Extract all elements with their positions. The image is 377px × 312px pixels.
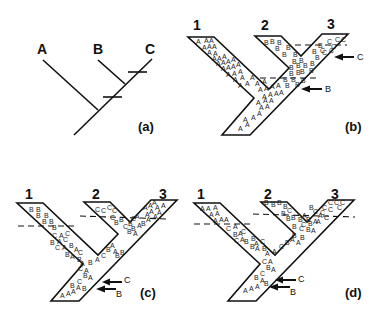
lineage-letter-c: C <box>226 225 231 232</box>
lineage-letter-a: A <box>311 227 316 234</box>
arrow-left-icon <box>301 86 310 93</box>
panel-b: 1 2 3 AAAAAAAAAAAAAAAAAAAAAAAAAAAAAAAAAA… <box>188 16 364 135</box>
arrow-left-icon <box>96 286 105 293</box>
tip-label-b: B <box>93 41 103 57</box>
lineage-letter-a: A <box>238 82 243 89</box>
arrow-label-b: B <box>116 289 122 299</box>
lineage-letter-b: B <box>254 274 259 281</box>
branch-b <box>98 60 125 84</box>
lineage-letter-c: C <box>260 238 265 245</box>
panel-label-a: (a) <box>138 119 154 134</box>
lineage-letter-b: B <box>312 48 317 55</box>
lineage-letter-b: B <box>88 259 93 266</box>
lineage-letter-a: A <box>271 266 276 273</box>
lineage-letter-c: C <box>335 36 340 43</box>
lineage-letter-c: C <box>279 243 284 250</box>
panel-label-d: (d) <box>345 285 362 300</box>
lineage-letter-c: C <box>78 265 83 272</box>
lineage-letter-a: A <box>245 80 250 87</box>
lineage-letter-b: B <box>270 38 275 45</box>
lineage-letter-a: A <box>249 285 254 292</box>
arrow-label-c: C <box>357 52 364 62</box>
lineage-letter-b: B <box>300 234 305 241</box>
figure-canvas: A B C (a) 1 2 3 AAAAAAAAAAAAAAAAAAAAAAAA… <box>0 0 377 312</box>
lineage-letter-b: B <box>285 82 290 89</box>
lineage-letter-a: A <box>133 230 138 237</box>
lineage-letter-b: B <box>295 81 300 88</box>
lineage-letter-b: B <box>82 285 87 292</box>
lineage-letter-c: C <box>313 208 318 215</box>
lineage-letter-b: B <box>292 232 297 239</box>
lineage-letter-c: C <box>320 47 325 54</box>
lineage-letter-b: B <box>244 238 249 245</box>
lineage-letter-a: A <box>245 121 250 128</box>
lineage-letter-a: A <box>196 38 201 45</box>
panel-a: A B C (a) <box>37 41 155 135</box>
lineage-letter-a: A <box>255 283 260 290</box>
arrow-left-icon <box>269 284 278 291</box>
lineage-letter-a: A <box>255 245 260 252</box>
lineage-letter-b: B <box>120 249 125 256</box>
panel-label-b: (b) <box>345 119 362 134</box>
lineage-letter-c: C <box>328 206 333 213</box>
branch-label-1: 1 <box>193 17 201 33</box>
arrow-b: B <box>269 284 296 298</box>
lineage-letter-a: A <box>272 248 277 255</box>
lineage-letter-b: B <box>271 201 276 208</box>
branch-label-2: 2 <box>261 17 269 33</box>
lineage-letter-a: A <box>62 244 67 251</box>
tip-label-c: C <box>145 41 155 57</box>
panel-d: 1 2 3 AAAAAAAACABACCABBACBABAACBABABCABA… <box>194 186 362 301</box>
lineage-letter-c: C <box>287 207 292 214</box>
lineage-letter-c: C <box>328 199 333 206</box>
lineage-letter-b: B <box>301 77 306 84</box>
lineage-letter-a: A <box>236 61 241 68</box>
lineage-letter-c: C <box>299 225 304 232</box>
arrow-left-icon <box>334 54 343 61</box>
arrow-b: B <box>96 286 122 300</box>
panel-c: 1 2 3 BBBBBBBCACBACCABACBABABACBAABBCABA… <box>17 186 177 301</box>
lineage-letter-a: A <box>157 209 162 216</box>
lineage-letter-b: B <box>277 199 282 206</box>
lineage-letter-b: B <box>127 228 132 235</box>
lineage-letter-a: A <box>71 288 76 295</box>
lineage-letter-b: B <box>275 45 280 52</box>
lineage-letter-b: B <box>292 223 297 230</box>
lineage-letter-a: A <box>76 284 81 291</box>
lineage-letter-a: A <box>212 43 217 50</box>
lineage-letter-a: A <box>233 223 238 230</box>
lineage-letter-b: B <box>310 60 315 67</box>
branch-label-3: 3 <box>327 16 335 32</box>
lineage-letter-b: B <box>264 199 269 206</box>
lineage-letter-a: A <box>238 125 243 132</box>
arrow-label-b: B <box>290 287 296 297</box>
lineage-letter-a: A <box>262 78 267 85</box>
branch-label-2: 2 <box>92 186 100 202</box>
lineage-letter-b: B <box>52 224 57 231</box>
lineage-letter-a: A <box>145 211 150 218</box>
arrow-label-b: B <box>325 84 331 94</box>
lineage-letter-c: C <box>101 207 106 214</box>
lineage-letter-a: A <box>316 218 321 225</box>
lineage-letter-b: B <box>291 214 296 221</box>
lineage-letter-a: A <box>226 71 231 78</box>
lineage-letter-b: B <box>286 44 291 51</box>
arrow-c: C <box>102 275 131 286</box>
lineage-letter-a: A <box>279 89 284 96</box>
arrow-label-c: C <box>298 274 305 284</box>
lineage-letter-c: C <box>337 204 342 211</box>
lineage-letter-b: B <box>293 51 298 58</box>
lineage-letter-c: C <box>260 270 265 277</box>
lineage-letter-b: B <box>264 280 269 287</box>
lineage-letter-c: C <box>101 252 106 259</box>
lineage-letter-a: A <box>265 103 270 110</box>
branch-label-1: 1 <box>25 186 33 202</box>
lineage-letter-a: A <box>153 213 158 220</box>
lineage-letter-b: B <box>29 206 34 213</box>
lineage-letter-b: B <box>300 68 305 75</box>
lineage-letter-a: A <box>258 86 263 93</box>
lineage-letter-c: C <box>63 236 68 243</box>
lineage-letter-a: A <box>213 217 218 224</box>
lineage-letter-a: A <box>70 253 75 260</box>
lineage-letter-a: A <box>257 110 262 117</box>
